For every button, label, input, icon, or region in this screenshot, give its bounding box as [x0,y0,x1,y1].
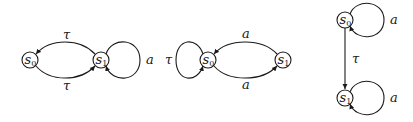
label-tau-bottom: τ [63,78,71,93]
edge-s1-s0-top [214,42,277,54]
diagram-left: τ τ a s0 s1 [22,27,154,93]
label-a-bottom: a [242,77,250,92]
edge-s1-s0-top [36,42,95,54]
lts-diagrams: τ τ a s0 s1 τ a a s0 s1 a τ a s0 [0,0,413,122]
label-a-loop-s0: a [390,12,398,27]
label-a-top: a [242,26,250,41]
diagram-middle: τ a a s0 s1 [165,26,291,92]
label-tau-loop: τ [165,52,173,67]
label-a-loop-s1: a [390,90,398,105]
loop-s1 [350,81,384,114]
loop-s0 [350,3,384,36]
label-tau: τ [352,51,360,66]
diagram-right: a τ a s0 s1 [337,3,398,114]
label-a-loop: a [146,52,154,67]
loop-s0 [176,42,203,78]
label-tau-top: τ [63,27,71,42]
edge-s0-s1-bottom [36,66,95,78]
loop-s1 [106,42,140,78]
